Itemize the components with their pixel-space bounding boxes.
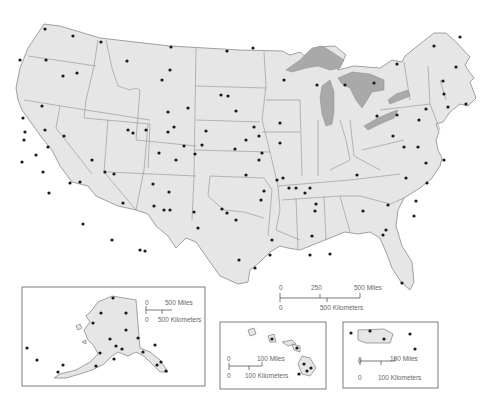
capital-dot [172,125,175,128]
capital-dot [90,158,93,161]
capital-dot [270,238,273,241]
capital-dot [404,176,407,179]
capital-dot [402,145,405,148]
capital-dot [99,40,102,43]
puerto-rico-dot [408,332,411,335]
alaska-dot [98,351,101,354]
alaska-dot [56,370,59,373]
capital-dot [103,170,106,173]
alaska-dot [120,347,123,350]
puerto-rico-dot [382,337,385,340]
capital-dot [162,208,165,211]
capital-dot [262,189,265,192]
puerto-rico-dot [349,331,352,334]
capital-dot [343,83,346,86]
svg-text:500 Miles: 500 Miles [165,299,194,306]
svg-text:0: 0 [279,304,283,311]
capital-dot [294,186,297,189]
capital-dot [71,34,74,37]
capital-dot [121,201,124,204]
capital-dot [112,172,115,175]
capital-dot [61,74,64,77]
capital-dot [157,151,160,154]
alaska-dot [35,358,38,361]
capital-dot [22,138,25,141]
svg-text:100 Miles: 100 Miles [257,355,286,362]
capital-dot [375,114,378,117]
alaska-dot [61,363,64,366]
capital-dot [186,106,189,109]
svg-text:100 Kilometers: 100 Kilometers [378,374,422,381]
capital-dot [287,186,290,189]
capital-dot [78,180,81,183]
capital-dot [310,234,313,237]
alaska-dot [141,350,144,353]
capital-dot [257,158,260,161]
capital-dot [225,49,228,52]
puerto-rico-dot [413,347,416,350]
puerto-rico-dot [368,329,371,332]
capital-dot [233,147,236,150]
svg-text:500 Miles: 500 Miles [354,284,383,291]
capital-dot [237,258,240,261]
capital-dot [166,130,169,133]
capital-dot [81,222,84,225]
hawaii-dot [270,337,273,340]
capital-dot [143,249,146,252]
capital-dot [167,190,170,193]
svg-text:100 Miles: 100 Miles [390,355,419,362]
svg-text:0: 0 [145,299,149,306]
capital-dot [219,93,222,96]
capital-dot [441,79,444,82]
capital-dot [253,266,256,269]
capital-dot [20,160,23,163]
capital-dot [18,58,21,61]
capital-dot [144,128,147,131]
alaska-dot [114,344,117,347]
capital-dot [43,128,46,131]
capital-dot [260,151,263,154]
capital-dot [425,181,428,184]
capital-dot [361,209,364,212]
capital-dot [381,233,384,236]
capital-dot [174,158,177,161]
alaska-dot [94,364,97,367]
svg-text:100 Kilometers: 100 Kilometers [245,372,289,379]
capital-dot [44,58,47,61]
alaska-dot [99,311,102,314]
alaska-dot [153,343,156,346]
capital-dot [412,214,415,217]
capital-dot [68,181,71,184]
capital-dot [372,81,375,84]
capital-dot [275,178,278,181]
capital-dot [281,176,284,179]
capital-dot [432,44,435,47]
capital-dot [204,129,207,132]
capital-dot [152,204,155,207]
capital-dot [278,141,281,144]
capital-dot [278,121,281,124]
capital-dot [192,210,195,213]
capital-dot [259,198,262,201]
capital-dot [160,78,163,81]
capital-dot [464,102,467,105]
capital-dot [151,182,154,185]
hawaii-inset: 0 100 Miles 0 100 Kilometers [220,322,326,389]
capital-dot [226,94,229,97]
svg-text:0: 0 [227,355,231,362]
svg-text:0: 0 [358,357,362,364]
svg-text:500 Kilometers: 500 Kilometers [320,304,364,311]
capital-dot [458,35,461,38]
puerto-rico-landmass [358,329,393,343]
main-scale-bar: 0 250 500 Miles 0 500 Kilometers [279,284,383,311]
capital-dot [257,134,260,137]
capital-dot [21,116,24,119]
capital-dot [168,68,171,71]
capital-dot [313,209,316,212]
svg-text:0: 0 [227,372,231,379]
capital-dot [244,173,247,176]
capital-dot [34,153,37,156]
svg-text:0: 0 [358,374,362,381]
capital-dot [414,199,417,202]
capital-dot [446,105,449,108]
